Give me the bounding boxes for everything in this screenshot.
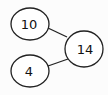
part-label-top: 10 xyxy=(21,17,38,32)
number-bond-diagram: 10 14 4 xyxy=(0,0,108,95)
part-label-bottom: 4 xyxy=(25,64,33,79)
part-circle-bottom: 4 xyxy=(11,55,49,87)
connector-line-bottom xyxy=(48,59,68,66)
whole-circle: 14 xyxy=(65,31,103,67)
connector-line-top xyxy=(48,28,67,37)
whole-label: 14 xyxy=(77,42,94,57)
part-circle-top: 10 xyxy=(11,8,49,40)
